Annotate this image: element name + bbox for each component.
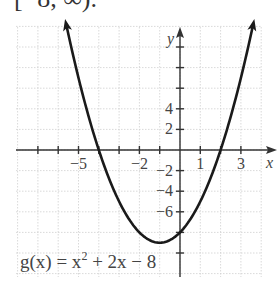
parabola-chart: −5−21342−2−4−6xyg(x) = x2 + 2x − 8 [0, 0, 280, 285]
y-tick-label: −4 [156, 182, 173, 199]
function-label: g(x) = x2 + 2x − 8 [20, 249, 156, 273]
y-tick-label: 2 [165, 120, 173, 137]
y-tick-label: 4 [165, 100, 173, 117]
x-tick-label: 1 [196, 155, 204, 172]
x-axis-label: x [265, 154, 273, 171]
x-tick-label: 3 [237, 155, 245, 172]
y-tick-label: −6 [156, 203, 173, 220]
x-tick-label: −2 [131, 155, 148, 172]
y-axis-label: y [165, 30, 175, 48]
y-tick-label: −2 [156, 162, 173, 179]
x-tick-label: −5 [70, 155, 87, 172]
